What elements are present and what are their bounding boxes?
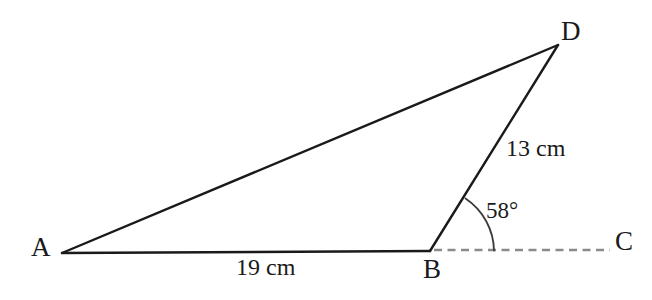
geometry-figure: A B C D 19 cm 13 cm 58° (0, 0, 652, 300)
measurement-label-side-ab: 19 cm (236, 255, 295, 279)
segment-ad (62, 45, 558, 253)
vertex-label-b: B (423, 256, 441, 283)
vertex-label-a: A (31, 234, 51, 261)
measurement-label-side-bd: 13 cm (506, 136, 565, 160)
vertex-label-c: C (615, 228, 633, 255)
segment-ab (62, 251, 430, 253)
vertex-label-d: D (561, 18, 581, 45)
measurement-label-angle-dbc: 58° (486, 199, 518, 222)
